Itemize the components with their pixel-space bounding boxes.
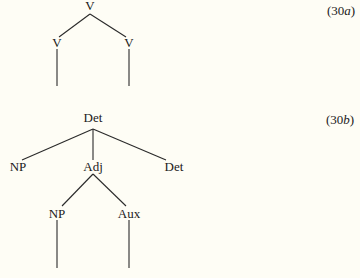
edge-30a-root-left — [59, 14, 90, 37]
node-30b-aux: Aux — [118, 207, 140, 221]
edge-30b-root-det — [93, 129, 166, 160]
node-30a-root: V — [85, 0, 94, 13]
equation-label-30b: (30b) — [326, 113, 354, 127]
node-30a-left: V — [52, 36, 61, 50]
edge-30b-adj-np — [62, 174, 93, 206]
edge-30b-root-np — [22, 129, 93, 160]
edge-30b-adj-aux — [93, 174, 126, 206]
node-30b-det: Det — [165, 160, 184, 174]
equation-label-30a: (30a) — [327, 4, 355, 18]
edge-30a-root-right — [90, 14, 126, 37]
node-30b-root-det: Det — [84, 111, 103, 125]
node-30b-np-child: NP — [49, 207, 66, 221]
node-30b-np: NP — [10, 160, 27, 174]
node-30a-right: V — [124, 36, 133, 50]
node-30b-adj: Adj — [83, 160, 103, 174]
